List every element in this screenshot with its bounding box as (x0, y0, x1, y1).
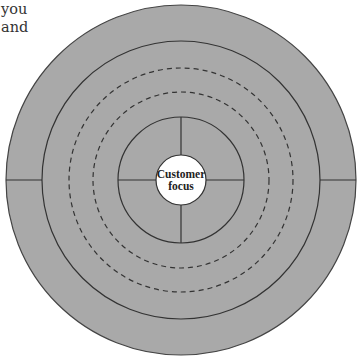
core-label: Customer focus (150, 168, 212, 192)
core-label-line1: Customer (150, 168, 212, 180)
core-label-line2: focus (150, 180, 212, 192)
